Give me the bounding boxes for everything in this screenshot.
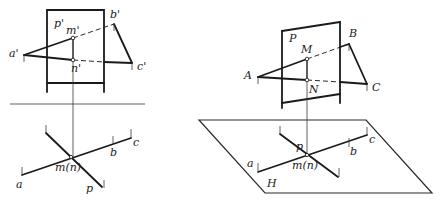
point-mn-plan-right: [305, 153, 308, 156]
label-p-prime: p': [54, 17, 64, 30]
right-pictorial-view: H P M N A B C: [199, 22, 432, 193]
right-plan-view: a b c p m(n): [247, 126, 375, 177]
point-mn-plan: [69, 155, 72, 158]
label-N: N: [308, 83, 319, 96]
label-a-right: a: [247, 157, 254, 170]
ground-plane-h: [199, 120, 432, 193]
label-c: c: [133, 136, 139, 149]
label-n-prime: n': [71, 62, 81, 75]
plane-p-trace: [46, 133, 102, 187]
label-a-prime: a': [9, 47, 19, 60]
label-mn: m(n): [55, 161, 81, 174]
label-c-right: c: [369, 133, 375, 146]
label-c-prime: c': [137, 60, 146, 73]
point-N: [305, 78, 309, 82]
point-M: [305, 57, 309, 61]
label-b-right: b: [350, 145, 357, 158]
label-C: C: [372, 81, 381, 94]
left-orthographic-view: p' m' n' a' b' c' a b c p m(n): [9, 8, 146, 195]
projection-diagram: p' m' n' a' b' c' a b c p m(n) H: [0, 0, 443, 205]
left-plan-view: a b c p m(n): [16, 125, 139, 195]
label-b-prime: b': [110, 8, 120, 21]
label-mn-right: m(n): [292, 159, 318, 172]
label-p-right: p: [296, 140, 303, 153]
label-A: A: [243, 69, 252, 82]
label-P: P: [288, 32, 297, 45]
label-a: a: [16, 178, 23, 191]
label-h: H: [266, 177, 277, 190]
label-p: p: [86, 182, 93, 195]
label-B: B: [348, 27, 357, 40]
label-M: M: [300, 43, 313, 56]
label-m-prime: m': [66, 24, 79, 37]
label-b: b: [110, 146, 117, 159]
